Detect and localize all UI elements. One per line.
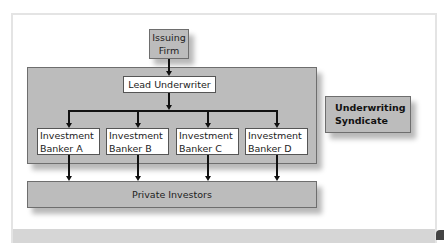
connector-banker-d-to-investors — [276, 155, 278, 176]
banker-b-line1: Investment — [109, 130, 168, 143]
issuing-firm-box: Issuing Firm — [149, 29, 189, 59]
lead-underwriter-box: Lead Underwriter — [123, 76, 216, 93]
banker-a-line2: Banker A — [40, 143, 99, 156]
banker-a-line1: Investment — [40, 130, 99, 143]
connector-to-banker-a — [68, 110, 70, 123]
banker-c-line2: Banker C — [179, 143, 238, 156]
connector-banker-c-to-investors — [207, 155, 209, 176]
connector-to-banker-b — [137, 110, 139, 123]
private-investors-box: Private Investors — [27, 181, 317, 208]
banker-b-line2: Banker B — [109, 143, 168, 156]
investment-banker-a-box: Investment Banker A — [37, 128, 100, 155]
connector-banker-a-to-investors — [68, 155, 70, 176]
corner-shadow — [436, 230, 444, 240]
connector-to-banker-c — [207, 110, 209, 123]
bottom-band — [13, 229, 435, 243]
issuing-firm-line2: Firm — [150, 45, 188, 58]
investment-banker-d-box: Investment Banker D — [245, 128, 308, 155]
investment-banker-b-box: Investment Banker B — [106, 128, 169, 155]
connector-to-banker-d — [276, 110, 278, 123]
banker-d-line2: Banker D — [248, 143, 307, 156]
syndicate-label-line2: Syndicate — [335, 114, 410, 127]
issuing-firm-line1: Issuing — [150, 32, 188, 45]
banker-d-line1: Investment — [248, 130, 307, 143]
connector-bus — [68, 110, 277, 112]
connector-banker-b-to-investors — [137, 155, 139, 176]
investment-banker-c-box: Investment Banker C — [176, 128, 239, 155]
syndicate-label-line1: Underwriting — [335, 101, 410, 114]
underwriting-syndicate-label: Underwriting Syndicate — [325, 96, 411, 133]
banker-c-line1: Investment — [179, 130, 238, 143]
